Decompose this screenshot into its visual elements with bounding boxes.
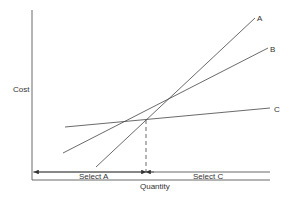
series-c-label: C: [274, 105, 280, 114]
y-axis-label: Cost: [13, 85, 30, 94]
series-a-label: A: [257, 14, 263, 23]
select-c-label: Select C: [193, 172, 223, 181]
x-axis-label: Quantity: [140, 182, 170, 191]
series-b-label: B: [270, 45, 275, 54]
line-a: [96, 18, 255, 167]
cost-quantity-diagram: A B C Cost Select A Select C Quantity: [0, 0, 294, 200]
select-a-label: Select A: [79, 172, 109, 181]
line-b: [63, 48, 268, 153]
line-c: [65, 108, 270, 127]
